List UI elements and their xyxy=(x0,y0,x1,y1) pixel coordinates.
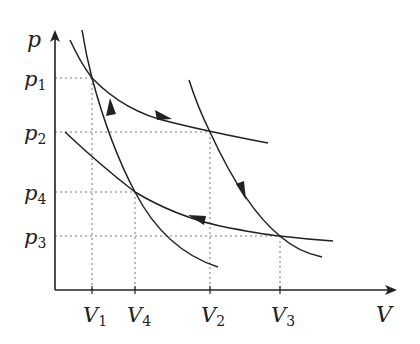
right-adiabat-curve xyxy=(189,80,322,257)
arrow-right-icon xyxy=(155,110,172,120)
pv-diagram: p V p1 p2 p4 p3 V1 V4 V2 V3 xyxy=(0,0,420,344)
p1-label: p1 xyxy=(24,67,46,93)
v4-label: V4 xyxy=(127,303,151,329)
p3-label: p3 xyxy=(24,225,46,251)
v1-label: V1 xyxy=(83,303,107,329)
arrow-down-icon xyxy=(236,181,246,200)
arrow-up-icon xyxy=(106,98,116,116)
volume-labels: V1 V4 V2 V3 xyxy=(83,303,295,329)
left-adiabat-curve xyxy=(82,30,218,267)
guide-lines xyxy=(55,78,280,290)
p2-label: p2 xyxy=(24,121,46,147)
arrow-left-icon xyxy=(188,215,206,225)
pressure-labels: p1 p2 p4 p3 xyxy=(24,67,46,251)
y-axis-label: p xyxy=(27,27,41,52)
v3-label: V3 xyxy=(271,303,295,329)
curves xyxy=(65,30,333,267)
lower-isotherm-curve xyxy=(65,132,333,241)
x-axis-label: V xyxy=(376,302,394,327)
v2-label: V2 xyxy=(201,303,225,329)
p4-label: p4 xyxy=(24,181,46,207)
upper-isotherm-curve xyxy=(70,40,268,143)
